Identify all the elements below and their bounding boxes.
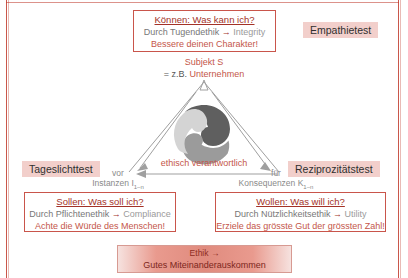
frame-left-border-2 <box>8 0 9 278</box>
ethik-label-line: Ethik → <box>118 248 291 259</box>
koennen-method-result: Integrity <box>233 27 265 37</box>
arrow-right-icon: → <box>333 209 342 219</box>
wollen-imperative: Erziele das grösste Gut der grössten Zah… <box>216 220 385 232</box>
koennen-method-prefix: Durch Tugendethik <box>144 27 220 37</box>
subject-line2-prefix: = z.B. <box>164 69 187 79</box>
subject-line1: Subjekt S <box>124 56 284 68</box>
sollen-method-result: Compliance <box>123 209 171 219</box>
frame-right-border <box>398 0 399 278</box>
empathy-test-label: Empathietest <box>303 22 378 38</box>
arrow-right-icon: → <box>112 209 121 219</box>
subject-line2-emphasis: Unternehmen <box>190 69 245 79</box>
wollen-method-prefix: Durch Nützlichkeitsethik <box>234 209 330 219</box>
frame-top-border <box>6 2 399 3</box>
left-caption-line2-text: Instanzen I <box>92 178 134 188</box>
wollen-method: Durch Nützlichkeitsethik → Utility <box>216 208 385 220</box>
koennen-imperative: Bessere deinen Charakter! <box>134 38 275 50</box>
slide-canvas: Können: Was kann ich? Durch Tugendethik … <box>0 0 408 278</box>
arrow-right-icon: → <box>222 27 231 37</box>
right-caption-line2: Konsequenzen K1–n <box>226 178 326 192</box>
subject-text: Subjekt S = z.B. Unternehmen <box>124 56 284 80</box>
right-caption-line2-text: Konsequenzen K <box>239 178 304 188</box>
wollen-method-result: Utility <box>345 209 367 219</box>
left-caption-line2-sub: 1–n <box>134 184 144 190</box>
wollen-heading: Wollen: Was will ich? <box>216 196 385 208</box>
sollen-box: Sollen: Was soll ich? Durch Pflichteneth… <box>24 192 176 232</box>
sollen-method-prefix: Durch Pflichtenethik <box>29 209 109 219</box>
right-side-caption: für Konsequenzen K1–n <box>226 168 326 192</box>
koennen-heading: Können: Was kann ich? <box>134 14 275 26</box>
left-side-caption: vor Instanzen I1–n <box>82 168 154 192</box>
ethik-summary-box: Ethik → Gutes Miteinanderauskommen <box>117 245 292 273</box>
frame-right-border-2 <box>400 0 401 278</box>
right-caption-line1: für <box>226 168 326 178</box>
sollen-heading: Sollen: Was soll ich? <box>25 196 175 208</box>
left-caption-line1: vor <box>82 168 154 178</box>
ethik-result: Gutes Miteinanderauskommen <box>118 259 291 271</box>
center-caption: ethisch verantwortlich <box>144 158 264 168</box>
arrow-right-icon: → <box>211 248 220 258</box>
frame-left-border <box>6 0 7 278</box>
sollen-method: Durch Pflichtenethik → Compliance <box>25 208 175 220</box>
koennen-method: Durch Tugendethik → Integrity <box>134 26 275 38</box>
wollen-box: Wollen: Was will ich? Durch Nützlichkeit… <box>215 192 386 232</box>
sollen-imperative: Achte die Würde des Menschen! <box>25 220 175 232</box>
subject-line2: = z.B. Unternehmen <box>124 68 284 80</box>
right-caption-line2-sub: 1–n <box>303 184 313 190</box>
ethik-label: Ethik <box>190 248 209 258</box>
left-caption-line2: Instanzen I1–n <box>82 178 154 192</box>
koennen-box: Können: Was kann ich? Durch Tugendethik … <box>133 10 276 52</box>
